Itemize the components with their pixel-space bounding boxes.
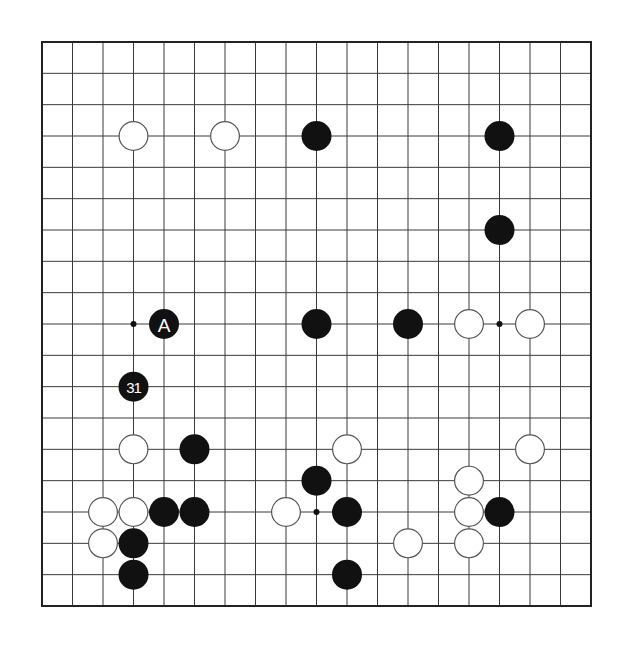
black-stone-circle bbox=[119, 528, 149, 558]
black-stone-circle bbox=[302, 466, 332, 496]
white-stone bbox=[119, 122, 148, 151]
go-board-svg: A31 bbox=[0, 0, 631, 647]
black-stone-circle bbox=[393, 309, 423, 339]
white-stone-circle bbox=[119, 122, 148, 151]
white-stone-circle bbox=[455, 466, 484, 495]
white-stone bbox=[455, 310, 484, 339]
white-stone-circle bbox=[211, 122, 240, 151]
white-stone bbox=[89, 498, 118, 527]
white-stone bbox=[119, 498, 148, 527]
white-stone-circle bbox=[272, 498, 301, 527]
white-stone bbox=[272, 498, 301, 527]
white-stone bbox=[211, 122, 240, 151]
black-stone bbox=[119, 528, 149, 558]
white-stone bbox=[516, 435, 545, 464]
black-stone-circle bbox=[485, 121, 515, 151]
black-stone-circle bbox=[149, 497, 179, 527]
white-stone-circle bbox=[455, 498, 484, 527]
black-stone-circle bbox=[119, 560, 149, 590]
go-board: A31 bbox=[0, 0, 631, 647]
star-point bbox=[497, 321, 503, 327]
black-stone bbox=[302, 309, 332, 339]
black-stone bbox=[485, 121, 515, 151]
black-stone bbox=[485, 497, 515, 527]
black-stone bbox=[332, 497, 362, 527]
white-stone bbox=[119, 435, 148, 464]
white-stone bbox=[455, 529, 484, 558]
black-stone-circle bbox=[302, 121, 332, 151]
black-stone bbox=[485, 215, 515, 245]
star-point bbox=[131, 321, 137, 327]
black-stone bbox=[393, 309, 423, 339]
black-stone bbox=[119, 560, 149, 590]
stone-label: A bbox=[158, 315, 171, 336]
white-stone-circle bbox=[516, 435, 545, 464]
stone-label: 31 bbox=[126, 379, 141, 396]
white-stone-circle bbox=[455, 310, 484, 339]
white-stone-circle bbox=[333, 435, 362, 464]
black-stone: A bbox=[149, 309, 179, 339]
white-stone-circle bbox=[89, 529, 118, 558]
white-stone-circle bbox=[455, 529, 484, 558]
white-stone bbox=[333, 435, 362, 464]
white-stone-circle bbox=[394, 529, 423, 558]
black-stone-circle bbox=[180, 497, 210, 527]
black-stone bbox=[302, 121, 332, 151]
black-stone bbox=[180, 434, 210, 464]
black-stone-circle bbox=[485, 215, 515, 245]
black-stone bbox=[180, 497, 210, 527]
white-stone bbox=[89, 529, 118, 558]
black-stone bbox=[332, 560, 362, 590]
black-stone bbox=[149, 497, 179, 527]
white-stone-circle bbox=[119, 435, 148, 464]
white-stone bbox=[394, 529, 423, 558]
white-stone bbox=[455, 466, 484, 495]
black-stone bbox=[302, 466, 332, 496]
white-stone-circle bbox=[119, 498, 148, 527]
star-point bbox=[314, 509, 320, 515]
black-stone-circle bbox=[180, 434, 210, 464]
black-stone-circle bbox=[332, 497, 362, 527]
white-stone-circle bbox=[516, 310, 545, 339]
white-stone-circle bbox=[89, 498, 118, 527]
black-stone: 31 bbox=[119, 372, 149, 402]
black-stone-circle bbox=[332, 560, 362, 590]
white-stone bbox=[455, 498, 484, 527]
black-stone-circle bbox=[302, 309, 332, 339]
white-stone bbox=[516, 310, 545, 339]
black-stone-circle bbox=[485, 497, 515, 527]
